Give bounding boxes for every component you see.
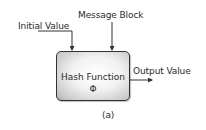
hash-function-box: Hash Function Φ [56, 51, 130, 101]
message-block-label: Message Block [78, 10, 143, 20]
hash-function-title: Hash Function [57, 72, 129, 82]
initial-value-label: Initial Value [18, 21, 69, 31]
figure-caption: (a) [102, 110, 114, 120]
output-value-label: Output Value [133, 66, 191, 76]
phi-symbol: Φ [57, 84, 129, 94]
initial-value-arrow [38, 31, 72, 50]
